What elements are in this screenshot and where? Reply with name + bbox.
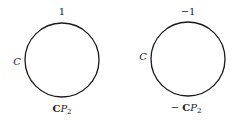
left-circle (25, 23, 99, 97)
right-bottom-label: − CP2 (171, 102, 202, 115)
left-bottom-bold: C (52, 103, 60, 114)
right-bottom-bold: C (182, 102, 190, 113)
right-bottom-sub: 2 (197, 107, 201, 115)
right-side-label: C (139, 51, 147, 62)
right-top-label: −1 (181, 6, 196, 17)
left-diagram: 1 C CP2 (13, 6, 99, 116)
right-bottom-prefix: − (171, 102, 183, 113)
right-circle (151, 22, 225, 96)
left-top-label: 1 (59, 6, 65, 17)
left-bottom-label: CP2 (52, 103, 71, 116)
diagram-canvas: 1 C CP2 −1 C − CP2 (0, 0, 235, 120)
left-side-label: C (13, 56, 21, 67)
right-diagram: −1 C − CP2 (139, 6, 225, 115)
left-bottom-sub: 2 (67, 108, 71, 116)
